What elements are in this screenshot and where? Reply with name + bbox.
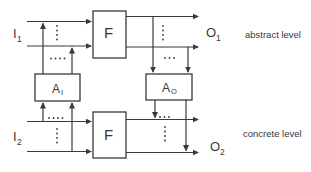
abstract-function-label: F <box>104 24 113 41</box>
concrete-function-label: F <box>104 126 113 143</box>
horizontal-ellipsis-ao-top-icon <box>164 57 175 59</box>
input1-subscript: 1 <box>17 34 22 44</box>
vertical-ellipsis-abstract-outputs-icon <box>162 25 164 40</box>
output1-subscript: 1 <box>216 33 221 43</box>
output1-label: O <box>206 25 216 40</box>
output-abstraction-subscript: O <box>171 87 177 96</box>
input-abstraction-label: A <box>52 82 60 96</box>
vertical-ellipsis-abstract-inputs-icon <box>56 25 58 40</box>
output2-subscript: 2 <box>220 147 225 157</box>
concrete-level-label: concrete level <box>243 128 302 139</box>
vertical-ellipsis-concrete-inputs-icon <box>56 128 58 143</box>
horizontal-ellipsis-ai-top-icon <box>50 58 65 60</box>
horizontal-ellipsis-ao-bottom-icon <box>159 116 170 118</box>
refinement-diagram-canvas: F F A I A O I 1 I 2 O 1 O 2 abstract lev… <box>0 0 311 172</box>
output2-label: O <box>210 139 220 154</box>
horizontal-ellipsis-ai-bottom-icon <box>48 117 63 119</box>
output-abstraction-label: A <box>162 81 170 95</box>
input2-subscript: 2 <box>17 137 22 147</box>
vertical-ellipsis-concrete-outputs-icon <box>164 126 166 141</box>
abstract-level-label: abstract level <box>245 29 301 40</box>
refinement-diagram: F F A I A O I 1 I 2 O 1 O 2 abstract lev… <box>0 0 311 172</box>
input-abstraction-subscript: I <box>61 88 63 97</box>
